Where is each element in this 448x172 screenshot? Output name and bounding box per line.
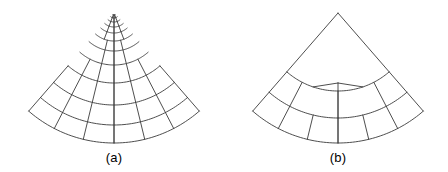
mesh-inner-ray-9-1 xyxy=(111,18,112,22)
mesh-ray-outer-4 xyxy=(363,115,369,139)
mesh-ray-outer-2 xyxy=(307,115,313,139)
mesh-ray-mid-1 xyxy=(290,82,302,106)
mesh-diagram-a xyxy=(0,0,224,172)
mesh-inner-ray-7-1 xyxy=(107,26,109,32)
mesh-inner-ray-10-1 xyxy=(112,15,113,18)
mesh-y-junction-right-edge xyxy=(338,83,363,87)
mesh-diagram-b xyxy=(224,0,448,172)
mesh-inner-ray-8-1 xyxy=(109,21,111,26)
mesh-ray-outer-1 xyxy=(278,106,289,128)
mesh-figure: (a) (b) xyxy=(0,0,448,172)
mesh-inner-ray-8-3 xyxy=(117,21,119,26)
mesh-panel-a: (a) xyxy=(0,0,224,172)
mesh-inner-ray-9-3 xyxy=(116,18,117,22)
mesh-ray-mid-5 xyxy=(374,82,386,106)
mesh-panel-b: (b) xyxy=(224,0,448,172)
mesh-inner-ray-7-3 xyxy=(119,26,121,32)
panel-caption-a: (a) xyxy=(2,150,226,165)
panel-caption-b: (b) xyxy=(226,150,448,165)
mesh-y-junction-left-edge xyxy=(313,83,338,87)
mesh-inner-ray-10-3 xyxy=(115,15,116,18)
mesh-ray-outer-5 xyxy=(386,106,397,128)
mesh-inner-ray-6-1 xyxy=(104,32,107,40)
mesh-inner-ray-6-3 xyxy=(121,32,124,40)
